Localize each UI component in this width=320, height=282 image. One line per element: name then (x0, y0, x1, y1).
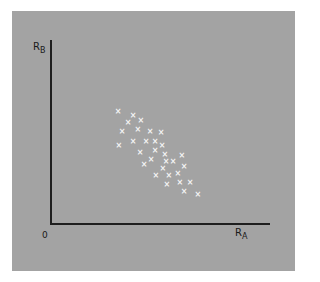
data-point-marker: × (143, 138, 150, 145)
data-point-marker: × (152, 147, 159, 154)
data-point-marker: × (137, 117, 144, 124)
data-point-marker: × (176, 179, 183, 186)
data-point-marker: × (158, 129, 165, 136)
data-point-marker: × (178, 152, 185, 159)
x-axis-label: RA (235, 228, 247, 242)
data-point-marker: × (130, 138, 137, 145)
data-point-marker: × (181, 163, 188, 170)
data-point-marker: × (163, 181, 170, 188)
data-point-marker: × (115, 142, 122, 149)
data-point-marker: × (181, 188, 188, 195)
data-point-marker: × (152, 138, 159, 145)
data-point-marker: × (174, 170, 181, 177)
y-axis (50, 40, 52, 225)
data-point-marker: × (165, 172, 172, 179)
data-point-marker: × (152, 172, 159, 179)
data-point-marker: × (119, 128, 126, 135)
x-axis (50, 223, 270, 225)
data-point-marker: × (148, 156, 155, 163)
origin-label: 0 (42, 230, 48, 240)
data-point-marker: × (170, 158, 177, 165)
data-point-marker: × (194, 191, 201, 198)
data-point-marker: × (159, 142, 166, 149)
y-axis-label: RB (33, 42, 45, 56)
data-point-marker: × (134, 126, 141, 133)
data-point-marker: × (147, 128, 154, 135)
data-point-marker: × (137, 149, 144, 156)
data-point-marker: × (141, 161, 148, 168)
data-point-marker: × (187, 179, 194, 186)
data-point-marker: × (115, 108, 122, 115)
data-point-marker: × (125, 119, 132, 126)
